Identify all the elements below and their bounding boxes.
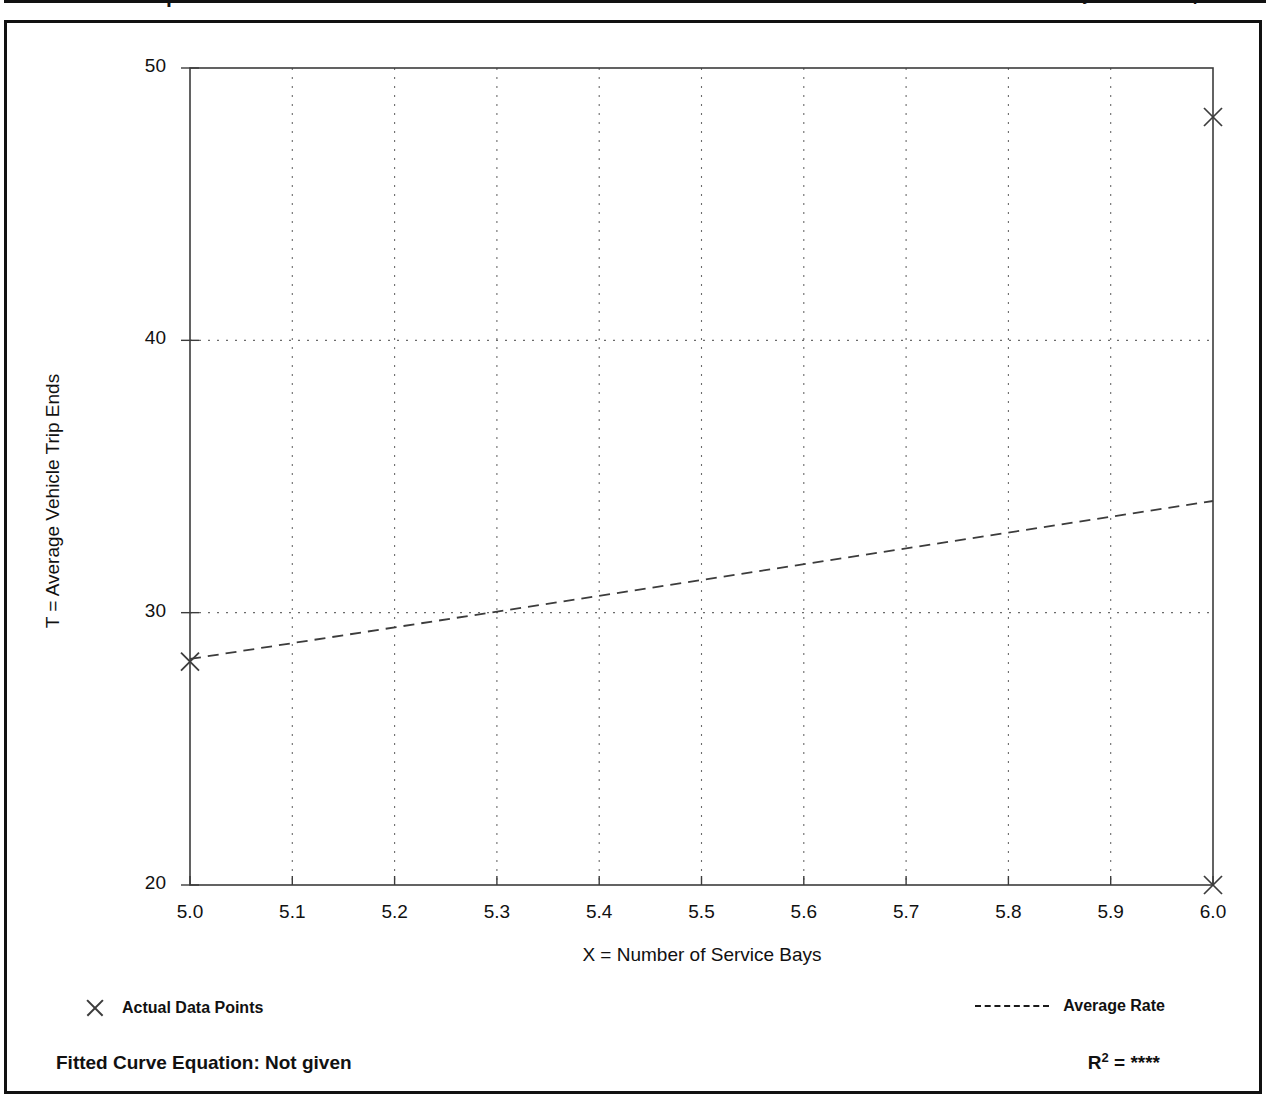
legend-label-average-rate: Average Rate bbox=[1063, 997, 1165, 1015]
legend-actual-data-points: Actual Data Points bbox=[84, 997, 263, 1019]
fitted-curve-equation: Fitted Curve Equation: Not given bbox=[56, 1052, 352, 1074]
r-squared-number: = **** bbox=[1114, 1052, 1160, 1073]
r-squared-prefix: R bbox=[1088, 1052, 1102, 1073]
legend-label-actual-data-points: Actual Data Points bbox=[122, 999, 263, 1017]
dashed-line-icon bbox=[975, 1005, 1049, 1007]
x-marker-icon bbox=[84, 997, 106, 1019]
legend-average-rate: Average Rate bbox=[975, 997, 1165, 1015]
page-header: Data Plot and Equation Caution - Use Car… bbox=[0, 0, 1270, 16]
r-squared-value: R2 = **** bbox=[1088, 1050, 1160, 1074]
r-squared-exponent: 2 bbox=[1102, 1050, 1109, 1065]
header-divider bbox=[4, 0, 1266, 3]
chart-frame bbox=[4, 20, 1262, 1094]
